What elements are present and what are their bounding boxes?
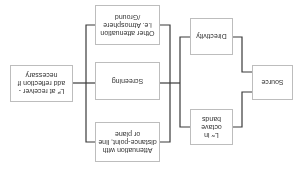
- flow-diagram: Source Directivity Lʷ in octave bands At…: [0, 0, 302, 170]
- other-attenuation-box: Other attenuation i.e. Atmosphere /Groun…: [95, 5, 160, 45]
- screening-box: Screening: [95, 62, 160, 100]
- directivity-label: Directivity: [196, 33, 226, 41]
- other-attenuation-label: Other attenuation i.e. Atmosphere /Groun…: [98, 13, 157, 37]
- receiver-level-label: Lᴾ at receiver -add reflection if necess…: [13, 72, 70, 96]
- source-label: Source: [261, 79, 283, 87]
- receiver-level-box: Lᴾ at receiver -add reflection if necess…: [10, 65, 73, 102]
- lw-octave-bands-label: Lʷ in octave bands: [193, 115, 230, 139]
- directivity-box: Directivity: [190, 18, 233, 55]
- distance-attenuation-box: Attenuation with distance-point, line or…: [95, 122, 160, 162]
- lw-octave-bands-box: Lʷ in octave bands: [190, 109, 233, 145]
- source-box: Source: [252, 65, 293, 100]
- distance-attenuation-label: Attenuation with distance-point, line or…: [98, 130, 157, 154]
- screening-label: Screening: [112, 77, 144, 85]
